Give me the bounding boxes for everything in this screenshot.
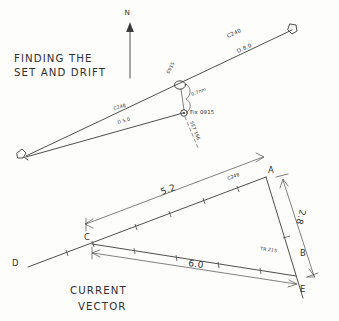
label-6-0: 6.0 [188,258,205,270]
label-5-2: 5.2 [159,182,177,197]
label-tr215: TR 215 [259,246,278,253]
point-label-a: A [268,165,274,175]
point-label-d: D [12,258,19,268]
lower-title-line2: VECTOR [78,301,126,312]
label-c248-lower: C248 [227,172,241,181]
dimension-2-8 [276,174,318,277]
point-label-c: C [84,232,90,242]
diagram-sheet: N FINDING THE SET AND DRIFT [0,0,339,321]
line-d-c-a [28,177,266,267]
lower-diagram-layer: A B C D E 5.2 6.0 2.8 C248 TR 215 CURREN… [0,0,339,321]
point-label-e: E [300,284,306,294]
line-a-b-e [266,177,303,298]
lower-title-line1: CURRENT [70,285,127,296]
label-2-8: 2.8 [294,208,308,226]
point-label-b: B [300,248,306,258]
